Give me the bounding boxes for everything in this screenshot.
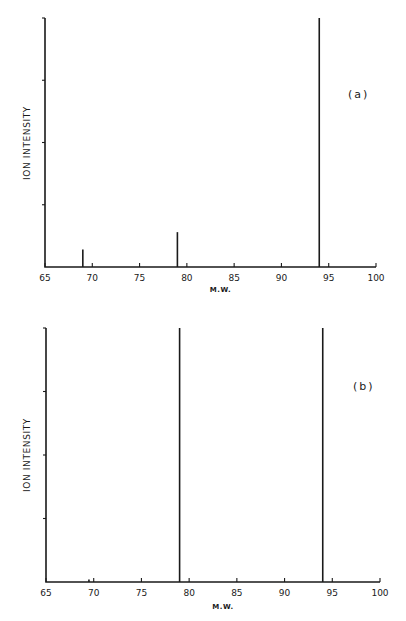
x-tick-label: 65 — [39, 273, 50, 283]
panel-label: (a) — [348, 88, 369, 101]
x-tick-label: 100 — [371, 588, 388, 598]
chart-b: 65707580859095100M.W.ION INTENSITY(b) — [22, 328, 389, 611]
x-tick-label: 90 — [276, 273, 288, 283]
x-tick-label: 90 — [279, 588, 291, 598]
y-axis-label: ION INTENSITY — [22, 106, 32, 180]
y-axis-label: ION INTENSITY — [22, 418, 32, 492]
x-tick-label: 75 — [136, 588, 147, 598]
panel-label: (b) — [353, 380, 375, 393]
figure: 65707580859095100M.W.ION INTENSITY(a) 65… — [0, 0, 406, 621]
x-tick-label: 80 — [181, 273, 193, 283]
x-axis-label: M.W. — [210, 286, 231, 294]
axes — [46, 328, 380, 582]
x-tick-label: 70 — [87, 273, 99, 283]
chart-a: 65707580859095100M.W.ION INTENSITY(a) — [22, 18, 385, 294]
x-tick-label: 85 — [228, 273, 239, 283]
x-tick-label: 65 — [40, 588, 51, 598]
axes — [45, 18, 376, 267]
x-tick-label: 70 — [88, 588, 100, 598]
x-tick-label: 80 — [183, 588, 195, 598]
x-tick-label: 100 — [367, 273, 384, 283]
x-tick-label: 75 — [134, 273, 145, 283]
x-tick-label: 85 — [231, 588, 242, 598]
x-tick-label: 95 — [327, 588, 338, 598]
x-tick-label: 95 — [323, 273, 334, 283]
x-axis-label: M.W. — [212, 603, 233, 611]
